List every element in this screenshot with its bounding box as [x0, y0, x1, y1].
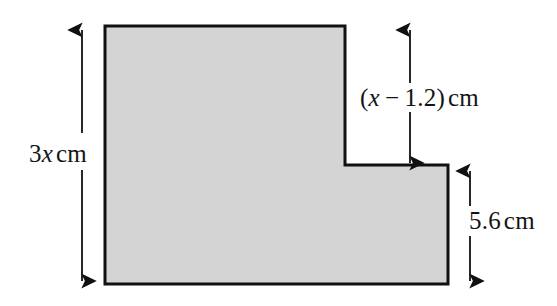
total-height-unit: cm: [56, 140, 87, 167]
upper-segment-operator: −: [385, 84, 399, 111]
upper-segment-value: 1.2: [405, 84, 437, 111]
upper-segment-paren-open: (: [360, 84, 369, 111]
upper-segment-variable: x: [369, 84, 380, 111]
lower-segment-value: 5.6: [469, 207, 501, 234]
l-shaped-polygon: [105, 26, 448, 284]
lower-segment-label: 5.6cm: [466, 208, 538, 233]
upper-segment-label: (x − 1.2)cm: [357, 85, 482, 110]
upper-segment-paren-close: ): [436, 84, 445, 111]
figure-canvas: 3xcm (x − 1.2)cm 5.6cm: [0, 0, 557, 306]
total-height-coefficient: 3: [29, 140, 42, 167]
total-height-variable: x: [42, 140, 53, 167]
upper-segment-unit: cm: [448, 84, 479, 111]
lower-segment-unit: cm: [504, 207, 535, 234]
total-height-label: 3xcm: [26, 141, 90, 166]
